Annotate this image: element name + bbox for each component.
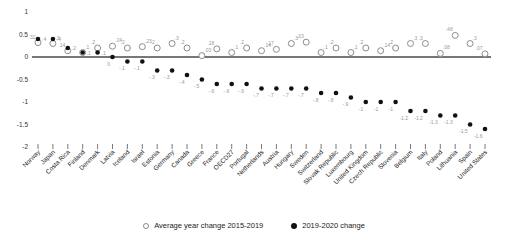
data-point-filled-dot [36,37,41,42]
y-axis-tick-label: 0 [24,53,28,60]
data-point-filled-dot [274,86,279,91]
data-point-filled-dot [244,82,249,87]
data-point-filled-dot [423,109,428,114]
open-circle-value-label: .3 [175,35,179,41]
filled-dot-value-label: -.3 [149,74,155,80]
data-point-open-circle [110,43,116,49]
category-label: Norway [21,148,43,170]
legend-label-2019-2020-change: 2019-2020 change [302,221,365,230]
filled-dot-value-label: -.8 [313,97,319,103]
data-point-filled-dot [185,73,190,78]
open-circle-value-label: .2 [359,39,363,45]
open-circle-value-label: .2 [121,39,125,45]
data-point-open-circle [199,53,205,59]
data-point-filled-dot [289,86,294,91]
filled-dot-value-label: -.7 [283,92,289,98]
data-point-filled-dot [468,122,473,127]
open-circle-value-label: .17 [267,40,274,46]
legend-item-2019-2020-change: 2019-2020 change [291,221,365,230]
data-point-open-circle [214,46,220,52]
filled-dot-value-label: -.3 [164,74,170,80]
filled-circle-marker-icon [291,223,297,229]
open-circle-value-label: .1 [234,44,238,50]
data-point-filled-dot [125,59,130,64]
data-point-open-circle [318,50,324,56]
data-point-open-circle [273,46,279,52]
filled-dot-value-label: -1.3 [444,119,453,125]
data-point-filled-dot [408,109,413,114]
filled-dot-value-label: -.1 [119,65,125,71]
open-circle-value-label: .3 [413,35,417,41]
filled-dot-value-label: -.4 [179,79,185,85]
filled-dot-value-label: -.5 [194,83,200,89]
data-point-open-circle [288,41,294,47]
filled-dot-value-label: -.1 [134,65,140,71]
filled-dot-value-label: -1.3 [429,119,438,125]
data-point-open-circle [124,45,130,51]
data-point-open-circle [139,44,145,50]
filled-dot-value-label: -.8 [328,97,334,103]
open-circle-value-label: .07 [476,45,483,51]
filled-dot-value-label: -1 [359,106,364,112]
legend: Average year change 2015-2019 2019-2020 … [0,221,508,230]
data-point-open-circle [244,45,250,51]
data-point-filled-dot [200,77,205,82]
y-axis-tick-label: -1.5 [17,121,29,128]
data-point-open-circle [95,45,101,51]
data-point-open-circle [437,50,443,56]
open-circle-value-label: .3 [473,35,477,41]
filled-dot-value-label: -1.2 [399,115,408,121]
data-point-open-circle [50,41,56,47]
data-point-filled-dot [304,86,309,91]
open-circle-value-label: .2 [180,39,184,45]
filled-dot-value-label: -1.2 [414,115,423,121]
plot-area: 10.50-0.5-1-1.5-2NorwayJapanCosta RicaFi… [0,0,508,236]
data-point-filled-dot [393,100,398,105]
open-circle-value-label: .48 [446,26,453,32]
data-point-filled-dot [259,86,264,91]
scatter-chart: 10.50-0.5-1-1.5-2NorwayJapanCosta RicaFi… [0,0,508,236]
data-point-filled-dot [334,91,339,96]
data-point-open-circle [482,51,488,57]
data-point-open-circle [378,48,384,54]
data-point-filled-dot [66,46,71,51]
open-circle-value-label: .2 [151,39,155,45]
filled-dot-value-label: -1.5 [459,128,468,134]
data-point-filled-dot [229,82,234,87]
open-circle-value-label: .33 [297,33,304,39]
category-label: Iceland [111,148,131,168]
open-circle-value-label: .08 [443,44,450,50]
open-circle-value-label: .1 [353,44,357,50]
data-point-filled-dot [378,100,383,105]
open-circle-value-label: .3 [419,35,423,41]
open-circle-value-label: .1 [324,44,328,50]
filled-dot-value-label: -1 [389,106,394,112]
data-point-open-circle [154,45,160,51]
legend-label-average-change: Average year change 2015-2019 [154,221,263,230]
open-circle-value-label: .2 [389,39,393,45]
data-point-filled-dot [140,59,145,64]
filled-dot-value-label: .2 [72,45,76,51]
data-point-open-circle [229,50,235,56]
data-point-filled-dot [95,50,100,55]
open-circle-value-label: .2 [329,39,333,45]
open-circle-value-label: .2 [91,39,95,45]
data-point-filled-dot [364,100,369,105]
data-point-filled-dot [215,82,220,87]
filled-dot-value-label: 0 [107,61,110,67]
data-point-filled-dot [110,55,115,60]
data-point-filled-dot [51,37,56,42]
y-axis-tick-label: 0.5 [19,31,28,38]
data-point-filled-dot [438,113,443,118]
open-circle-value-label: .18 [207,40,214,46]
open-circle-value-label: .14 [58,42,65,48]
filled-dot-value-label: -.6 [223,88,229,94]
filled-dot-value-label: -1 [374,106,379,112]
data-point-filled-dot [349,95,354,100]
data-point-filled-dot [155,68,160,73]
filled-dot-value-label: -1.6 [474,133,483,139]
filled-dot-value-label: -.7 [298,92,304,98]
y-axis-tick-label: -0.5 [17,76,29,83]
filled-dot-value-label: -.9 [343,101,349,107]
data-point-open-circle [303,39,309,45]
